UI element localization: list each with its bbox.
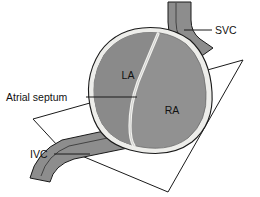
ivc-label: IVC bbox=[30, 148, 48, 160]
right-atrium-label: RA bbox=[165, 104, 180, 116]
heart-anatomy-diagram: LA RA SVC Atrial septum IVC bbox=[0, 0, 260, 197]
atrial-septum-label: Atrial septum bbox=[6, 91, 68, 103]
left-atrium-label: LA bbox=[122, 69, 135, 81]
anatomical-figure: LA RA SVC Atrial septum IVC bbox=[0, 0, 260, 197]
svc-label: SVC bbox=[215, 24, 237, 36]
